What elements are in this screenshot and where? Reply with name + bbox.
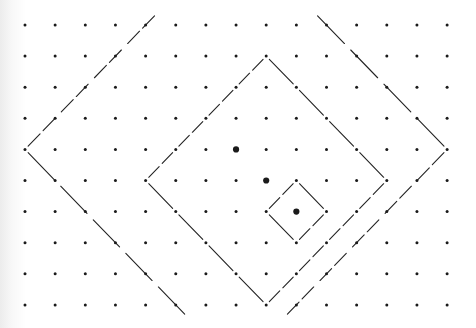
lattice-dot xyxy=(235,179,238,182)
middle-diamond-segment xyxy=(149,167,159,178)
middle-diamond-segment xyxy=(179,135,189,146)
lattice-dot xyxy=(235,272,238,275)
middle-diamond-segment xyxy=(192,122,202,133)
middle-diamond-segment xyxy=(209,246,233,271)
lattice-dot xyxy=(385,241,388,244)
highlighted-point xyxy=(293,209,299,215)
lattice-dot xyxy=(84,148,87,151)
worksheet-figure xyxy=(0,0,476,328)
lattice-dot xyxy=(265,86,268,89)
lattice-dot xyxy=(295,241,298,244)
lattice-dot xyxy=(174,55,177,58)
lattice-dot xyxy=(144,179,147,182)
lattice-dot xyxy=(446,179,449,182)
outer-left-chevron-segment xyxy=(126,253,152,280)
middle-diamond-segment xyxy=(239,73,249,84)
lattice-dot xyxy=(54,55,57,58)
middle-diamond-segment xyxy=(330,122,354,147)
lattice-dot xyxy=(204,272,207,275)
middle-diamond-segment xyxy=(269,59,293,84)
lattice-dot xyxy=(415,303,418,306)
outer-right-chevron-segment xyxy=(384,84,411,112)
lattice-dot xyxy=(204,179,207,182)
lattice-dot xyxy=(265,148,268,151)
lattice-dot xyxy=(295,86,298,89)
lattice-dot xyxy=(204,303,207,306)
lattice-dot xyxy=(84,86,87,89)
small-diamond-segment xyxy=(269,215,293,240)
middle-diamond-segment xyxy=(179,215,203,240)
lattice-dot xyxy=(355,241,358,244)
lattice-dot xyxy=(446,303,449,306)
lattice-dot xyxy=(355,303,358,306)
lattice-dot xyxy=(295,303,298,306)
lattice-dot xyxy=(385,148,388,151)
lattice-dot xyxy=(415,117,418,120)
middle-diamond-segment xyxy=(330,229,340,240)
small-diamond-segment xyxy=(299,229,309,240)
lattice-dot xyxy=(204,86,207,89)
lattice-dot xyxy=(24,210,27,213)
lattice-dot xyxy=(24,24,27,27)
lattice-dot xyxy=(385,55,388,58)
small-diamond-segment xyxy=(313,215,323,226)
lattice-dot xyxy=(54,241,57,244)
lattice-dot xyxy=(24,179,27,182)
lattice-dot xyxy=(24,241,27,244)
middle-diamond-segment xyxy=(162,153,172,164)
highlighted-point xyxy=(233,146,239,152)
shape-lines xyxy=(28,16,444,314)
lattice-dot xyxy=(54,210,57,213)
lattice-dot xyxy=(84,179,87,182)
lattice-dot xyxy=(114,303,117,306)
lattice-dot xyxy=(325,117,328,120)
lattice-dot xyxy=(114,179,117,182)
middle-diamond-segment xyxy=(299,260,309,271)
lattice-dot xyxy=(204,148,207,151)
lattice-dot xyxy=(204,55,207,58)
lattice-dot xyxy=(235,86,238,89)
lattice-dot xyxy=(325,179,328,182)
middle-diamond-segment xyxy=(313,246,323,257)
outer-right-chevron-segment xyxy=(367,220,379,232)
lattice-dot xyxy=(174,24,177,27)
lattice-dot xyxy=(84,55,87,58)
middle-diamond-segment xyxy=(373,184,383,195)
outer-right-chevron-segment xyxy=(353,235,365,247)
outer-left-chevron-segment xyxy=(28,134,40,146)
lattice-dot xyxy=(355,55,358,58)
lattice-dot xyxy=(144,241,147,244)
lattice-dot xyxy=(446,117,449,120)
lattice-dot xyxy=(385,24,388,27)
lattice-dot xyxy=(204,117,207,120)
lattice-dot xyxy=(265,210,268,213)
middle-diamond-segment xyxy=(343,215,353,226)
lattice-dot xyxy=(325,55,328,58)
lattice-dot xyxy=(84,241,87,244)
lattice-dot xyxy=(446,55,449,58)
lattice-dot xyxy=(355,117,358,120)
lattice-dot xyxy=(84,303,87,306)
lattice-dot xyxy=(114,241,117,244)
outer-left-chevron-segment xyxy=(128,31,140,43)
outer-right-chevron-segment xyxy=(335,253,347,265)
lattice-dot xyxy=(204,24,207,27)
lattice-dot xyxy=(265,241,268,244)
lattice-dot xyxy=(355,272,358,275)
lattice-dot xyxy=(295,55,298,58)
lattice-dot xyxy=(174,117,177,120)
lattice-dot xyxy=(385,303,388,306)
lattice-dot xyxy=(84,210,87,213)
lattice-dot xyxy=(295,148,298,151)
outer-right-chevron-segment xyxy=(302,287,314,299)
lattice-dot xyxy=(446,86,449,89)
outer-right-chevron-segment xyxy=(432,153,444,165)
lattice-dot xyxy=(204,210,207,213)
lattice-dot xyxy=(24,117,27,120)
middle-diamond-segment xyxy=(269,291,279,302)
lattice-dots xyxy=(24,24,449,307)
lattice-dot xyxy=(54,117,57,120)
lattice-dot xyxy=(54,148,57,151)
lattice-dot xyxy=(355,148,358,151)
lattice-dot xyxy=(325,241,328,244)
